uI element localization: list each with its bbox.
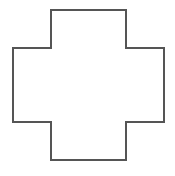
diagram-canvas <box>0 0 175 176</box>
cross-shape <box>13 10 164 160</box>
